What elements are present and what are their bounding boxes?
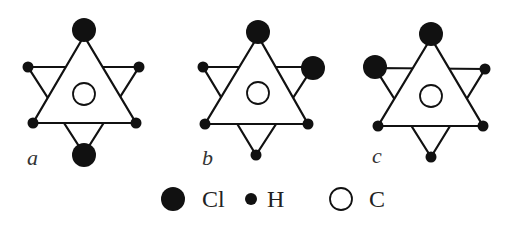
hydrogen-atom-icon	[28, 118, 39, 129]
up-triangle	[205, 36, 308, 124]
hydrogen-atom-icon	[303, 119, 314, 130]
chlorine-atom-icon	[72, 18, 96, 42]
hydrogen-atom-icon	[478, 121, 489, 132]
hydrogen-atom-icon	[23, 62, 34, 73]
hydrogen-atom-icon	[480, 64, 491, 75]
carbon-symbol-icon	[330, 188, 352, 210]
chlorine-atom-icon	[419, 22, 443, 46]
legend-item-c: C	[330, 186, 385, 212]
molecule-c: c	[363, 22, 491, 168]
hydrogen-atom-icon	[198, 62, 209, 73]
carbon-atom-icon	[247, 82, 269, 104]
molecule-diagram: abc ClHC	[0, 0, 516, 228]
hydrogen-symbol-icon	[245, 193, 257, 205]
hydrogen-atom-icon	[134, 62, 145, 73]
molecule-label: b	[202, 145, 213, 170]
chlorine-atom-icon	[363, 55, 387, 79]
molecule-b: b	[198, 20, 326, 170]
up-triangle	[378, 38, 483, 126]
legend-label: Cl	[202, 186, 225, 212]
legend-label: C	[369, 186, 385, 212]
chlorine-atom-icon	[72, 143, 96, 167]
legend-label: H	[267, 186, 284, 212]
chlorine-atom-icon	[301, 56, 325, 80]
molecule-a: a	[23, 18, 145, 170]
up-triangle	[33, 36, 136, 123]
carbon-atom-icon	[73, 83, 95, 105]
legend-item-h: H	[245, 186, 284, 212]
chlorine-atom-icon	[246, 20, 270, 44]
carbon-atom-icon	[420, 85, 442, 107]
molecule-label: a	[27, 145, 38, 170]
molecule-label: c	[372, 143, 382, 168]
legend-item-cl: Cl	[161, 186, 225, 212]
chlorine-symbol-icon	[161, 187, 185, 211]
hydrogen-atom-icon	[373, 121, 384, 132]
hydrogen-atom-icon	[200, 119, 211, 130]
molecules-group: abc	[23, 18, 491, 170]
hydrogen-atom-icon	[251, 150, 262, 161]
hydrogen-atom-icon	[131, 118, 142, 129]
hydrogen-atom-icon	[426, 152, 437, 163]
legend: ClHC	[161, 186, 385, 212]
